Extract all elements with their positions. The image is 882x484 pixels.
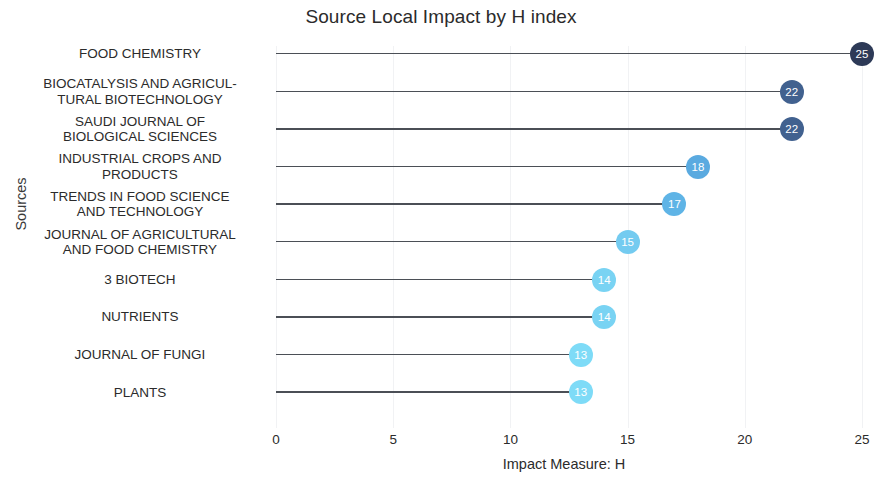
stem-line xyxy=(276,354,581,355)
x-axis: 0510152025 xyxy=(276,428,862,452)
x-tick-label: 5 xyxy=(373,432,413,447)
category-label: PLANTS xyxy=(14,385,266,401)
stem-line xyxy=(276,53,862,54)
data-point-marker[interactable]: 18 xyxy=(686,155,710,179)
stem-line xyxy=(276,391,581,392)
data-point-marker[interactable]: 22 xyxy=(780,117,804,141)
lollipop-row: 13 xyxy=(276,342,862,368)
x-axis-title: Impact Measure: H xyxy=(276,456,852,472)
lollipop-row: 14 xyxy=(276,304,862,330)
data-point-marker[interactable]: 25 xyxy=(850,42,874,66)
category-label: FOOD CHEMISTRY xyxy=(14,46,266,62)
stem-line xyxy=(276,203,674,204)
lollipop-row: 22 xyxy=(276,116,862,142)
lollipop-row: 13 xyxy=(276,379,862,405)
data-point-marker[interactable]: 14 xyxy=(592,305,616,329)
x-tick-label: 10 xyxy=(490,432,530,447)
plot-area: 25222218171514141313 xyxy=(276,46,862,428)
category-label: JOURNAL OF AGRICULTURAL AND FOOD CHEMIST… xyxy=(14,227,266,258)
lollipop-row: 14 xyxy=(276,267,862,293)
stem-line xyxy=(276,166,698,167)
data-point-marker[interactable]: 15 xyxy=(616,230,640,254)
x-tick-label: 0 xyxy=(256,432,296,447)
data-point-marker[interactable]: 22 xyxy=(780,80,804,104)
x-tick-label: 25 xyxy=(842,432,882,447)
category-label: NUTRIENTS xyxy=(14,309,266,325)
lollipop-row: 18 xyxy=(276,154,862,180)
category-label: INDUSTRIAL CROPS AND PRODUCTS xyxy=(14,151,266,182)
category-label: 3 BIOTECH xyxy=(14,272,266,288)
stem-line xyxy=(276,241,628,242)
lollipop-row: 17 xyxy=(276,191,862,217)
category-label: JOURNAL OF FUNGI xyxy=(14,347,266,363)
data-point-marker[interactable]: 14 xyxy=(592,268,616,292)
category-label: BIOCATALYSIS AND AGRICUL- TURAL BIOTECHN… xyxy=(14,76,266,107)
x-tick-label: 20 xyxy=(725,432,765,447)
stem-line xyxy=(276,279,604,280)
chart-title: Source Local Impact by H index xyxy=(0,6,882,28)
stem-line xyxy=(276,316,604,317)
data-point-marker[interactable]: 13 xyxy=(569,380,593,404)
data-point-marker[interactable]: 17 xyxy=(662,192,686,216)
lollipop-row: 25 xyxy=(276,41,862,67)
stem-line xyxy=(276,91,792,92)
lollipop-row: 22 xyxy=(276,79,862,105)
stem-line xyxy=(276,128,792,129)
x-tick-label: 15 xyxy=(608,432,648,447)
data-point-marker[interactable]: 13 xyxy=(569,343,593,367)
category-label: TRENDS IN FOOD SCIENCE AND TECHNOLOGY xyxy=(14,189,266,220)
category-label: SAUDI JOURNAL OF BIOLOGICAL SCIENCES xyxy=(14,114,266,145)
grid-line-25 xyxy=(862,46,863,428)
lollipop-row: 15 xyxy=(276,229,862,255)
lollipop-chart: Source Local Impact by H index Sources 2… xyxy=(0,0,882,484)
